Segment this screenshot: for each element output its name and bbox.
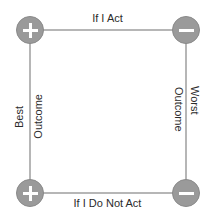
plus-icon [23, 23, 38, 38]
label-worst: Worst [188, 84, 201, 117]
minus-icon [179, 23, 194, 38]
edge-right [185, 30, 187, 193]
label-best: Best [13, 104, 26, 130]
edge-bottom [30, 192, 186, 194]
node-bottom-right-negative[interactable] [172, 179, 200, 207]
node-top-left-positive[interactable] [16, 16, 44, 44]
minus-icon [179, 186, 194, 201]
plus-icon [23, 186, 38, 201]
label-if-i-act: If I Act [89, 12, 126, 25]
node-top-right-negative[interactable] [172, 16, 200, 44]
label-if-i-do-not-act: If I Do Not Act [71, 197, 145, 210]
decision-matrix-diagram: If I Act If I Do Not Act Best Outcome Ou… [0, 0, 215, 218]
edge-left [29, 30, 31, 193]
label-best-outcome: Outcome [32, 92, 45, 141]
edge-top [30, 29, 186, 31]
label-worst-outcome: Outcome [172, 85, 185, 134]
node-bottom-left-positive[interactable] [16, 179, 44, 207]
